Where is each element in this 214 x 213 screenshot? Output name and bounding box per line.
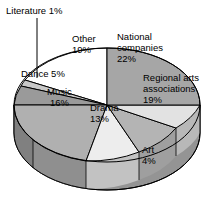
label-other-name: Other — [72, 33, 96, 44]
label-music-value: 16% — [50, 97, 70, 108]
label-literature: Literature 1% — [6, 5, 63, 16]
pie-chart: Literature 1% Other 19% National compani… — [0, 0, 214, 213]
label-music-name: Music — [47, 86, 72, 97]
label-national-name-line2: companies — [117, 42, 163, 53]
label-regional-name-line1: Regional arts — [143, 72, 199, 83]
label-drama-value: 13% — [90, 113, 110, 124]
label-dance: Dance 5% — [21, 68, 65, 79]
label-other-value: 19% — [72, 44, 92, 55]
label-art-value: 4% — [142, 155, 156, 166]
label-art-name: Art — [142, 144, 155, 155]
label-regional-value: 19% — [143, 94, 163, 105]
label-drama-name: Drama — [90, 102, 119, 113]
pie-chart-svg: Literature 1% Other 19% National compani… — [0, 0, 214, 213]
label-national-value: 22% — [117, 53, 137, 64]
label-regional-name-line2: associations — [143, 83, 196, 94]
label-national-name-line1: National — [117, 31, 152, 42]
